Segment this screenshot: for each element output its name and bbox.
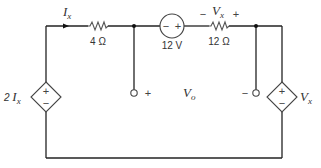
vo-minus-sign: −: [242, 87, 248, 99]
voltage-source-plus: +: [175, 20, 181, 32]
dep-source-left-plus: +: [43, 85, 49, 97]
current-ix-label: Ix: [62, 4, 71, 21]
current-ix-arrow-icon: [63, 24, 69, 29]
dep-source-left-minus: −: [43, 97, 49, 109]
vo-plus-sign: +: [145, 87, 151, 99]
terminal-vo-minus-icon: [253, 90, 259, 96]
dep-source-right-label: Vx: [300, 89, 312, 106]
voltage-source-minus: −: [163, 20, 169, 32]
vo-label: Vo: [183, 85, 196, 102]
vx-label: Vx: [212, 3, 224, 20]
resistor-12-ohm-icon: [209, 22, 229, 30]
terminal-vo-plus-icon: [131, 90, 137, 96]
resistor-12-ohm-label: 12 Ω: [208, 36, 230, 47]
circuit-diagram: Ix 4 Ω − + 12 V 12 Ω − Vx + + − 2 Ix + −…: [0, 0, 321, 168]
node-dot-left: [132, 24, 136, 28]
dep-source-right-plus: +: [279, 85, 285, 97]
voltage-source-12v-label: 12 V: [162, 40, 183, 51]
vx-minus-sign: −: [200, 8, 206, 20]
dep-source-left-label: 2 Ix: [3, 89, 21, 106]
resistor-4-ohm-icon: [88, 22, 108, 30]
dep-source-right-minus: −: [279, 97, 285, 109]
resistor-4-ohm-label: 4 Ω: [90, 36, 106, 47]
node-dot-right: [254, 24, 258, 28]
vx-plus-sign: +: [233, 8, 239, 20]
